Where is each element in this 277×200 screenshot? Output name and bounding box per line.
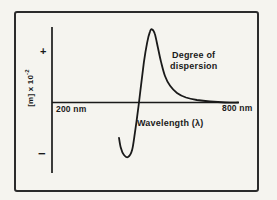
x-axis-tick-200nm: 200 nm <box>56 105 87 114</box>
y-axis-minus-marker: − <box>38 147 46 160</box>
y-axis-label-exponent: -2 <box>24 69 30 75</box>
y-axis-plus-marker: + <box>40 46 47 57</box>
y-axis-label-base: [m] x 10 <box>26 75 35 107</box>
dispersion-curve <box>119 29 238 157</box>
figure: [m] x 10-2 + − 200 nm 800 nm Wavelength … <box>0 0 277 200</box>
y-axis-label: [m] x 10-2 <box>24 69 35 107</box>
chart-canvas <box>0 0 277 200</box>
annotation-line-2: dispersion <box>170 61 218 72</box>
annotation-line-1: Degree of <box>170 50 218 61</box>
dispersion-annotation: Degree of dispersion <box>170 50 218 72</box>
x-axis-tick-800nm: 800 nm <box>222 104 253 113</box>
x-axis-title: Wavelength (λ) <box>137 119 203 128</box>
